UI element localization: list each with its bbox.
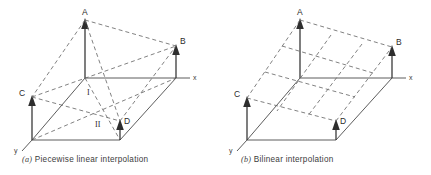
panel-b-graphic: A B C D x y [229,7,413,155]
panel-a-x-axis-label: x [193,74,197,81]
panel-a-diagonal-y-to-B [32,78,176,140]
base-edge-right [336,78,392,140]
panel-a-edge-A-D [85,20,120,121]
panel-b-label-A: A [297,7,303,17]
panel-a-edge-C-D [32,97,120,121]
panel-a-y-axis-label: y [14,147,18,155]
panel-b-edge-A-C [247,20,300,98]
panel-b-ruling-u-1 [282,46,373,73]
base-edge-left [247,78,300,140]
panel-b-arrow-B [388,45,396,78]
panel-a-edge-C-B [32,46,176,97]
panel-a-graphic: A B C D x y I II [14,7,197,155]
panel-b-arrow-C [243,96,251,140]
base-edge-right [120,78,176,140]
panel-b-surface-ruling-u [265,46,373,97]
panel-a-diagonal-origin-D [85,78,120,140]
panel-b-caption: (b) Bilinear interpolation [241,155,334,164]
panel-a-label-C: C [19,88,25,98]
panel-a-y-axis [22,140,32,151]
panel-b-arrow-A [296,18,304,78]
panel-b-caption-text: Bilinear interpolation [254,155,334,164]
figure-root: A B C D x y I II [0,0,431,175]
panel-b-edge-A-B [300,20,392,47]
panel-a-caption: (a) Piecewise linear interpolation [22,155,148,164]
panel-b-edge-C-D [247,98,336,121]
panel-a-arrow-C [28,95,36,140]
panel-b-ruling-v-1 [277,35,331,111]
panel-a-surface-mesh [32,20,176,121]
panel-a-arrow-B [172,44,180,78]
panel-a-caption-text: Piecewise linear interpolation [35,155,149,164]
panel-b-surface-boundary [247,20,392,121]
figure-svg: A B C D x y I II [0,0,431,175]
panel-a-edge-D-B [120,46,176,121]
panel-a-region-label-I: I [87,88,90,97]
panel-b-label-C: C [234,89,240,99]
panel-b-ruling-u-2 [265,72,355,97]
panel-a-label-B: B [180,36,186,46]
panel-a-caption-index: (a) [22,155,32,164]
panel-b-ruling-v-2 [307,44,362,117]
panel-b-caption-index: (b) [241,155,251,164]
panel-b-y-axis [237,140,247,151]
panel-a-label-D: D [124,116,130,126]
panel-b-y-axis-label: y [229,147,233,155]
arrow-A-head [296,18,304,29]
panel-b-x-axis-label: x [409,74,413,81]
panel-b-label-B: B [396,37,402,47]
panel-a-label-A: A [82,7,88,17]
panel-b-edge-D-B [336,47,392,121]
panel-a-region-label-II: II [95,120,101,129]
panel-a-edge-A-C [32,20,85,97]
panel-a-edge-A-B [85,20,176,46]
panel-b-surface-ruling-v [277,35,362,117]
panel-b-label-D: D [340,116,346,126]
